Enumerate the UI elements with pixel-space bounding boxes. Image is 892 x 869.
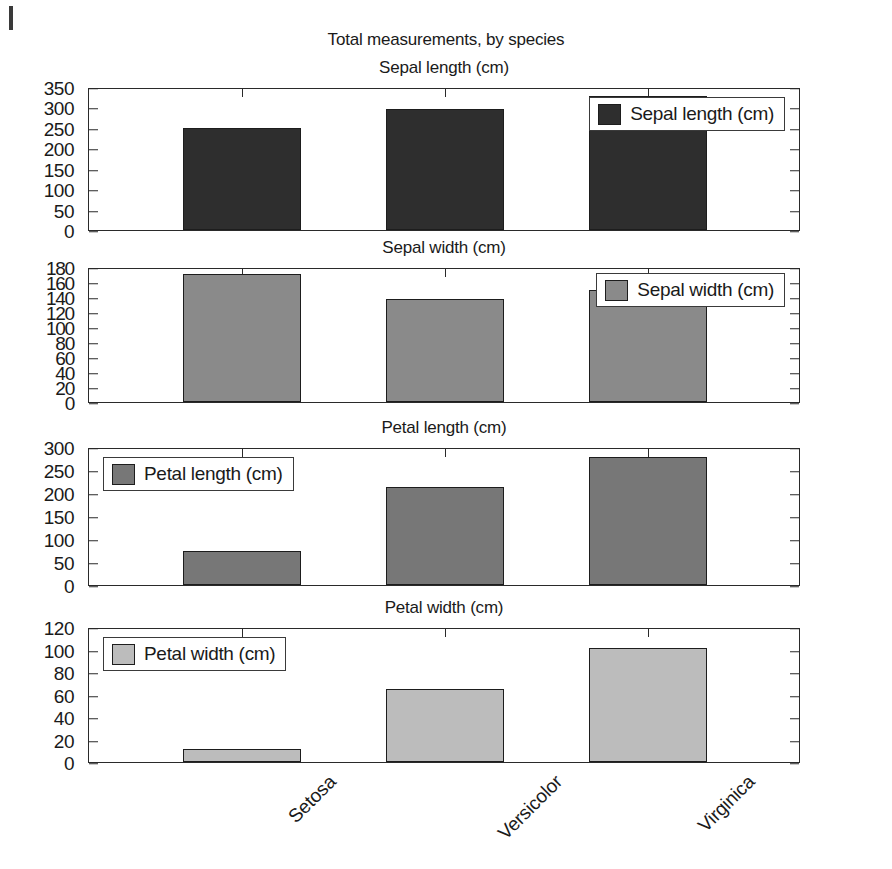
y-axis-tick-label: 250 [44, 462, 74, 481]
y-axis-tick-right [790, 373, 799, 374]
y-axis-tick [89, 343, 98, 344]
y-axis-tick [89, 563, 98, 564]
y-axis-tick-labels: 050100150200250300 [0, 448, 84, 586]
plot-axes: Sepal width (cm) [88, 268, 800, 403]
y-axis-tick [89, 628, 98, 629]
y-axis-tick [89, 150, 98, 151]
y-axis-tick-label: 150 [44, 160, 74, 179]
y-axis-tick [89, 651, 98, 652]
y-axis-tick [89, 741, 98, 742]
y-axis-tick-labels: 020406080100120 [0, 628, 84, 763]
legend[interactable]: Sepal width (cm) [596, 273, 785, 307]
legend[interactable]: Sepal length (cm) [589, 97, 785, 131]
y-axis-tick-label: 20 [54, 731, 74, 750]
y-axis-tick-right [790, 109, 799, 110]
y-axis-tick-right [790, 448, 799, 449]
subplot-title: Petal width (cm) [88, 598, 800, 618]
subplot-title: Sepal length (cm) [88, 58, 800, 78]
y-axis-tick [89, 763, 98, 764]
bar-versicolor [386, 299, 503, 403]
y-axis-tick [89, 109, 98, 110]
bar-setosa [183, 128, 300, 230]
y-axis-tick-label: 0 [64, 754, 74, 773]
y-axis-tick-right [790, 651, 799, 652]
legend-color-swatch [112, 644, 135, 665]
legend-color-swatch [598, 104, 621, 125]
y-axis-tick [89, 231, 98, 232]
x-axis-tick-top [445, 269, 446, 277]
subplot-title: Petal length (cm) [88, 418, 800, 438]
y-axis-tick [89, 494, 98, 495]
bar-versicolor [386, 109, 503, 230]
y-axis-tick-label: 250 [44, 119, 74, 138]
y-axis-tick-right [790, 343, 799, 344]
y-axis-tick-label: 200 [44, 140, 74, 159]
y-axis-tick-right [790, 494, 799, 495]
x-axis-tick-top [445, 89, 446, 97]
y-axis-tick-right [790, 471, 799, 472]
y-axis-tick-right [790, 673, 799, 674]
y-axis-tick [89, 268, 98, 269]
bar-setosa [183, 749, 300, 763]
y-axis-tick-label: 100 [44, 531, 74, 550]
y-axis-tick-right [790, 563, 799, 564]
y-axis-tick-right [790, 517, 799, 518]
x-axis-tick-top [445, 449, 446, 457]
y-axis-tick-label: 150 [44, 508, 74, 527]
y-axis-tick-right [790, 586, 799, 587]
y-axis-tick [89, 388, 98, 389]
y-axis-tick-label: 200 [44, 485, 74, 504]
y-axis-tick-right [790, 741, 799, 742]
y-axis-tick [89, 373, 98, 374]
y-axis-tick [89, 517, 98, 518]
y-axis-tick [89, 170, 98, 171]
bar-virginica [589, 290, 706, 402]
y-axis-tick-right [790, 696, 799, 697]
y-axis-tick [89, 540, 98, 541]
x-axis-label-virginica: Virginica [694, 771, 760, 837]
y-axis-tick-label: 50 [54, 201, 74, 220]
plot-axes: Sepal length (cm) [88, 88, 800, 231]
bar-virginica [589, 457, 706, 585]
y-axis-tick [89, 471, 98, 472]
y-axis-tick [89, 313, 98, 314]
y-axis-tick-label: 60 [54, 686, 74, 705]
bar-setosa [183, 551, 300, 585]
y-axis-tick [89, 673, 98, 674]
figure-suptitle: Total measurements, by species [0, 30, 892, 50]
y-axis-tick-right [790, 298, 799, 299]
y-axis-tick-right [790, 358, 799, 359]
legend[interactable]: Petal length (cm) [103, 457, 294, 491]
y-axis-tick-label: 40 [54, 709, 74, 728]
y-axis-tick-right [790, 129, 799, 130]
legend-label: Sepal length (cm) [630, 103, 774, 125]
y-axis-tick-labels: 020406080100120140160180 [0, 268, 84, 403]
plot-axes: Petal length (cm) [88, 448, 800, 586]
x-axis-tick-top [242, 629, 243, 637]
y-axis-tick-right [790, 283, 799, 284]
y-axis-tick [89, 283, 98, 284]
y-axis-tick [89, 403, 98, 404]
y-axis-tick [89, 211, 98, 212]
y-axis-tick-label: 100 [44, 641, 74, 660]
y-axis-tick [89, 448, 98, 449]
y-axis-tick-label: 180 [46, 259, 74, 278]
subplot-title: Sepal width (cm) [88, 238, 800, 258]
x-axis-label-versicolor: Versicolor [494, 771, 567, 844]
y-axis-tick-right [790, 763, 799, 764]
y-axis-tick-right [790, 88, 799, 89]
y-axis-tick-right [790, 628, 799, 629]
y-axis-tick-label: 120 [44, 619, 74, 638]
bar-setosa [183, 274, 300, 402]
y-axis-tick-right [790, 313, 799, 314]
y-axis-tick-right [790, 718, 799, 719]
x-axis-tick-top [445, 629, 446, 637]
x-axis-tick-top [648, 629, 649, 637]
y-axis-tick [89, 88, 98, 89]
legend[interactable]: Petal width (cm) [103, 637, 286, 671]
y-axis-tick [89, 718, 98, 719]
y-axis-tick-label: 50 [54, 554, 74, 573]
y-axis-tick-labels: 050100150200250300350 [0, 88, 84, 231]
y-axis-tick [89, 129, 98, 130]
y-axis-tick-right [790, 211, 799, 212]
